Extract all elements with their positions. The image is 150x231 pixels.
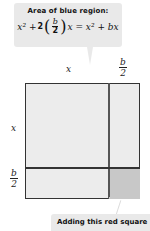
area-callout-pointer bbox=[87, 47, 93, 65]
eq-x-squared: x² + bbox=[17, 22, 36, 32]
red-square-callout: Adding this red square bbox=[51, 214, 150, 231]
vertical-divider bbox=[108, 83, 110, 199]
left-b-half-label: b 2 bbox=[10, 168, 18, 189]
top-b-den: 2 bbox=[120, 68, 126, 78]
area-callout: Area of blue region: x² + 2 ( b 2 ) x = … bbox=[14, 3, 122, 47]
eq-paren-open: ( bbox=[44, 19, 50, 35]
left-x-label: x bbox=[11, 123, 16, 133]
left-b-num: b bbox=[11, 168, 17, 178]
eq-rest: x = x² + bx bbox=[68, 22, 119, 32]
area-equation: x² + 2 ( b 2 ) x = x² + bx bbox=[14, 18, 122, 35]
red-callout-pointer bbox=[116, 200, 122, 215]
eq-fraction: b 2 bbox=[52, 18, 58, 35]
red-square-callout-text: Adding this red square bbox=[51, 218, 150, 226]
red-square bbox=[109, 168, 140, 199]
top-x-label: x bbox=[66, 64, 71, 74]
top-b-num: b bbox=[120, 57, 126, 67]
eq-frac-den: 2 bbox=[52, 27, 58, 35]
area-callout-title: Area of blue region: bbox=[14, 7, 122, 15]
horizontal-divider bbox=[25, 167, 140, 169]
eq-frac-num: b bbox=[53, 18, 58, 26]
top-b-half-label: b 2 bbox=[119, 57, 127, 78]
eq-coefficient: 2 bbox=[37, 22, 43, 31]
left-b-den: 2 bbox=[11, 179, 17, 189]
eq-paren-close: ) bbox=[60, 19, 66, 35]
red-square-bottom-edge bbox=[109, 197, 140, 199]
